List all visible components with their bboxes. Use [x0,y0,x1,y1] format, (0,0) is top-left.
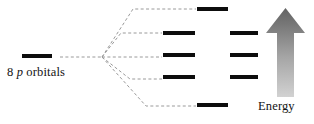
energy-arrow-group [266,8,305,97]
correlation-lines-group [60,9,196,106]
correlation-line-4 [102,57,162,79]
energy-level-diagram: 8 p orbitals Energy [0,0,314,124]
correlation-line-5 [102,57,196,106]
source-label-prefix: 8 [7,65,17,79]
energy-arrow-icon [266,8,305,97]
source-label-suffix: orbitals [23,65,65,79]
correlation-line-2 [102,33,162,57]
split-levels-group [163,9,258,105]
energy-axis-label: Energy [258,99,295,113]
source-level-label: 8 p orbitals [7,65,65,79]
